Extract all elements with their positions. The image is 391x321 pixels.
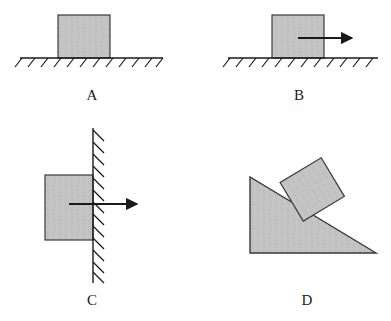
- wall-surface-c: [93, 128, 104, 283]
- panel-b: B: [223, 15, 378, 103]
- panel-d: D: [250, 158, 376, 308]
- panel-label-b: B: [294, 87, 304, 103]
- block-c: [45, 175, 93, 240]
- panel-label-d: D: [302, 292, 313, 308]
- panel-label-a: A: [87, 87, 98, 103]
- block-b: [272, 15, 324, 58]
- ground-surface-b: [223, 58, 378, 67]
- physics-figure: A: [0, 0, 391, 321]
- panel-label-c: C: [87, 292, 97, 308]
- ground-surface-a: [15, 58, 163, 67]
- panel-c: C: [45, 128, 137, 308]
- panel-a: A: [15, 15, 163, 103]
- figure-canvas: A: [0, 0, 391, 321]
- block-a: [58, 15, 110, 58]
